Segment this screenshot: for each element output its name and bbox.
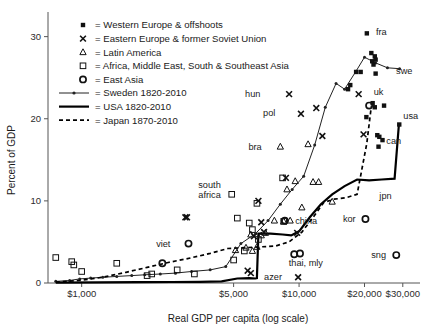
y-tick-label: 0 bbox=[36, 277, 41, 288]
y-tick-label: 20 bbox=[30, 113, 41, 124]
marker-filled-square bbox=[376, 144, 380, 148]
point-annotation: pol bbox=[263, 108, 275, 118]
marker-filled-square bbox=[371, 62, 375, 66]
series-line bbox=[56, 125, 399, 283]
series-point bbox=[302, 175, 305, 178]
marker-filled-square bbox=[364, 115, 368, 119]
series-point bbox=[224, 265, 227, 268]
series-point bbox=[101, 276, 104, 279]
legend-label: = USA 1820-2010 bbox=[95, 101, 171, 112]
marker-x-cross bbox=[258, 219, 264, 225]
marker-x-cross bbox=[319, 133, 325, 139]
marker-open-square bbox=[229, 192, 235, 198]
chart-figure: 0102030 $1,000$5,000$10,000$20,000$30,00… bbox=[0, 0, 428, 332]
marker-filled-square bbox=[348, 83, 352, 87]
series-point bbox=[159, 272, 162, 275]
marker-open-square bbox=[246, 220, 252, 226]
marker-open-square bbox=[114, 260, 120, 266]
x-tick-label: $30,000 bbox=[386, 288, 420, 299]
marker-triangle bbox=[305, 141, 311, 147]
series-point bbox=[239, 242, 242, 245]
legend-entry: = Japan 1870-2010 bbox=[59, 115, 178, 126]
marker-circle bbox=[80, 76, 86, 82]
point-annotation: viet bbox=[156, 239, 171, 249]
marker-open-square bbox=[235, 215, 241, 221]
series-point bbox=[209, 268, 212, 271]
marker-x-cross bbox=[356, 91, 362, 97]
marker-x-cross bbox=[361, 131, 367, 137]
legend-label: = Western Europe & offshoots bbox=[95, 19, 223, 30]
legend-label: = Sweden 1820-2010 bbox=[95, 87, 186, 98]
point-annotation: kor bbox=[343, 214, 356, 224]
marker-x-cross bbox=[313, 105, 319, 111]
point-annotation: usa bbox=[403, 111, 419, 121]
point-annotation: sng bbox=[371, 250, 386, 260]
point-annotation: africa bbox=[198, 190, 221, 200]
legend-label: = Eastern Europe & former Soviet Union bbox=[95, 33, 266, 44]
x-tick-label: $10,000 bbox=[282, 288, 316, 299]
point-annotation: jpn bbox=[378, 191, 391, 201]
marker-filled-square bbox=[346, 87, 350, 91]
series-point bbox=[363, 56, 366, 59]
legend-entry: = Sweden 1820-2010 bbox=[59, 87, 186, 98]
marker-open-square bbox=[53, 255, 59, 261]
marker-filled-square bbox=[373, 71, 377, 75]
series-point bbox=[279, 203, 282, 206]
marker-filled-square bbox=[365, 31, 369, 35]
marker-filled-square bbox=[358, 70, 362, 74]
marker-x-cross bbox=[283, 175, 289, 181]
chart-legend: = Western Europe & offshoots= Eastern Eu… bbox=[59, 19, 290, 125]
point-annotation: fra bbox=[376, 27, 388, 37]
marker-triangle bbox=[284, 186, 290, 192]
marker-circle bbox=[393, 252, 399, 258]
marker-circle bbox=[362, 216, 368, 222]
legend-entry: = East Asia bbox=[80, 74, 144, 85]
series-point bbox=[130, 274, 133, 277]
marker-filled-square bbox=[81, 23, 85, 27]
marker-open-square bbox=[242, 248, 248, 254]
marker-filled-square bbox=[397, 122, 401, 126]
series-point bbox=[313, 144, 316, 147]
y-axis-title: Percent of GDP bbox=[6, 125, 17, 195]
scatter-group bbox=[159, 103, 399, 267]
marker-filled-square bbox=[380, 138, 384, 142]
scatter-group bbox=[232, 141, 335, 254]
legend-label: = Africa, Middle East, South & Southeast… bbox=[95, 60, 290, 71]
marker-circle bbox=[366, 103, 372, 109]
point-annotation: azer bbox=[264, 272, 282, 282]
marker-x-cross bbox=[295, 274, 301, 280]
x-tick-label: $20,000 bbox=[347, 288, 381, 299]
point-annotation: hun bbox=[245, 89, 260, 99]
marker-triangle bbox=[80, 49, 86, 55]
series-point bbox=[335, 82, 338, 85]
marker-filled-square bbox=[373, 57, 377, 61]
legend-entry: = Africa, Middle East, South & Southeast… bbox=[80, 60, 289, 71]
y-tick-label: 10 bbox=[30, 195, 41, 206]
marker-triangle bbox=[271, 217, 277, 223]
legend-entry: = Eastern Europe & former Soviet Union bbox=[80, 33, 266, 44]
marker-x-cross bbox=[286, 91, 292, 97]
point-annotation: south bbox=[198, 180, 220, 190]
marker-filled-square bbox=[354, 70, 358, 74]
x-axis-ticks: $1,000$5,000$10,000$20,000$30,000 bbox=[67, 283, 420, 299]
series-point bbox=[115, 275, 118, 278]
chart-canvas: 0102030 $1,000$5,000$10,000$20,000$30,00… bbox=[0, 0, 428, 332]
marker-filled-square bbox=[373, 105, 377, 109]
marker-triangle bbox=[310, 179, 316, 185]
marker-x-cross bbox=[298, 111, 304, 117]
legend-line-marker bbox=[72, 91, 75, 94]
marker-triangle bbox=[315, 179, 321, 185]
marker-x-cross bbox=[248, 270, 254, 276]
point-annotation: uk bbox=[374, 87, 384, 97]
legend-label: = East Asia bbox=[95, 74, 144, 85]
series-point bbox=[386, 66, 389, 69]
legend-entry: = Latin America bbox=[80, 47, 162, 58]
legend-entry: = Western Europe & offshoots bbox=[81, 19, 223, 30]
marker-circle bbox=[185, 240, 191, 246]
marker-open-square bbox=[79, 269, 85, 275]
x-tick-label: $1,000 bbox=[67, 288, 96, 299]
point-annotation: can bbox=[386, 136, 401, 146]
legend-label: = Japan 1870-2010 bbox=[95, 115, 178, 126]
marker-triangle bbox=[299, 204, 305, 210]
legend-label: = Latin America bbox=[95, 47, 162, 58]
